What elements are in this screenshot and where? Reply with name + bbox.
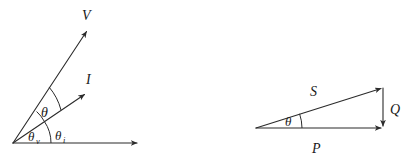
theta-label-text: θ <box>41 105 48 120</box>
vector-figure: V I θ θ v θ i S <box>0 0 413 166</box>
theta-v-label-text: θ <box>28 129 35 144</box>
reactive-power-label: Q <box>390 102 400 117</box>
current-phasor-line <box>13 95 85 144</box>
theta-i-label: θ i <box>55 128 66 145</box>
apparent-power-line <box>256 89 381 129</box>
current-label: I <box>85 72 92 87</box>
power-triangle: S P Q θ <box>256 84 400 156</box>
theta-i-label-text: θ <box>55 128 62 143</box>
theta-arc <box>49 87 61 110</box>
apparent-power-label: S <box>310 84 317 99</box>
theta-i-arc <box>44 122 51 144</box>
theta-v-subscript: v <box>36 136 40 146</box>
figure-canvas: V I θ θ v θ i S <box>0 0 413 166</box>
real-power-label: P <box>311 141 321 156</box>
phasor-diagram: V I θ θ v θ i <box>13 8 137 146</box>
power-theta-arc <box>300 114 302 128</box>
theta-label: θ <box>41 105 48 120</box>
power-theta-label: θ <box>285 114 292 129</box>
voltage-label: V <box>82 8 92 23</box>
theta-v-label: θ v <box>28 129 40 146</box>
